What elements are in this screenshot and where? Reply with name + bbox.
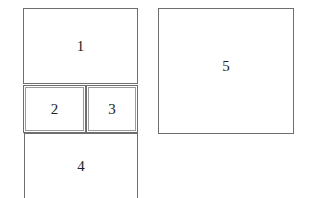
panel-4-label: 4 bbox=[77, 159, 85, 174]
panel-3-label: 3 bbox=[108, 102, 116, 117]
panel-2-label: 2 bbox=[51, 102, 59, 117]
panel-4: 4 bbox=[24, 133, 138, 198]
panel-1: 1 bbox=[23, 8, 138, 84]
panel-2: 2 bbox=[23, 85, 86, 133]
panel-1-label: 1 bbox=[77, 39, 85, 54]
panel-5: 5 bbox=[158, 8, 294, 134]
panel-5-label: 5 bbox=[222, 59, 230, 74]
panel-3: 3 bbox=[86, 85, 138, 133]
